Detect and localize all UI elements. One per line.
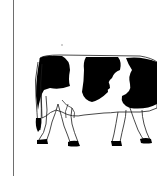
- front-leg-right: [130, 108, 150, 140]
- cow-illustration: [0, 0, 157, 180]
- rear-hoof-left: [37, 139, 48, 144]
- rear-hoof-right: [68, 141, 80, 147]
- front-leg-left: [112, 110, 126, 142]
- front-hoof-left: [111, 141, 122, 146]
- front-hoof-right: [140, 138, 152, 144]
